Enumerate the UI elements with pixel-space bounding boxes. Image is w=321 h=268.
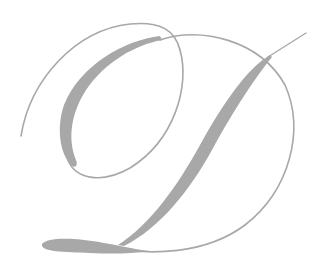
bottom-tail-swoosh: [42, 239, 150, 254]
monogram-canvas: [0, 0, 321, 268]
main-diagonal-stem: [118, 55, 272, 246]
calligraphic-d-icon: [0, 0, 321, 268]
top-right-flourish: [268, 33, 306, 57]
upper-loop: [68, 50, 183, 178]
upper-loop-thick-stroke: [60, 36, 162, 167]
